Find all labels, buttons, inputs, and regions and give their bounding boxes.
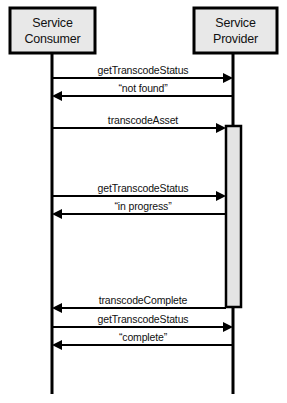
message-label: getTranscodeStatus (98, 182, 189, 194)
message-complete[interactable]: “complete” (52, 331, 233, 350)
message-transcode-complete[interactable]: transcodeComplete (52, 294, 226, 313)
message-label: “in progress” (115, 200, 173, 212)
participant-service-consumer[interactable]: Service Consumer (10, 8, 95, 53)
participant-service-provider[interactable]: Service Provider (194, 8, 277, 53)
message-label: getTranscodeStatus (98, 313, 189, 325)
sequence-diagram: Service Consumer Service Provider getTra… (0, 0, 287, 403)
message-label: “complete” (119, 331, 168, 343)
message-label: “not found” (118, 82, 168, 94)
message-in-progress[interactable]: “in progress” (52, 200, 226, 219)
participant-service-consumer-line1: Service (32, 16, 73, 30)
participant-service-provider-line2: Provider (213, 32, 258, 46)
activation-bar-provider (226, 126, 241, 307)
diagram-canvas: Service Consumer Service Provider getTra… (0, 0, 287, 403)
arrowhead-right-icon (216, 123, 226, 133)
message-label: getTranscodeStatus (98, 64, 189, 76)
message-label: transcodeComplete (99, 294, 188, 306)
message-not-found[interactable]: “not found” (52, 82, 233, 101)
message-get-transcode-status-3[interactable]: getTranscodeStatus (52, 313, 233, 332)
participant-service-consumer-line2: Consumer (24, 32, 80, 46)
message-label: transcodeAsset (108, 114, 179, 126)
participant-service-provider-line1: Service (215, 16, 256, 30)
message-get-transcode-status-1[interactable]: getTranscodeStatus (52, 64, 233, 83)
message-get-transcode-status-2[interactable]: getTranscodeStatus (52, 182, 226, 201)
arrowhead-right-icon (216, 191, 226, 201)
message-transcode-asset[interactable]: transcodeAsset (52, 114, 226, 133)
